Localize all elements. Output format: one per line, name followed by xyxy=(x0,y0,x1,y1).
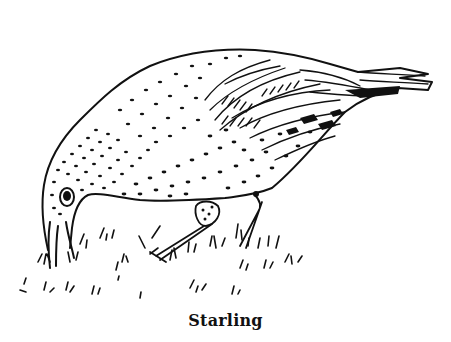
bird-leg-left xyxy=(150,224,212,262)
grass-tufts xyxy=(20,224,302,298)
starling-illustration xyxy=(0,0,451,300)
bird-thigh xyxy=(195,202,219,227)
bird-wing-feathers xyxy=(205,60,428,160)
figure-caption: Starling xyxy=(0,311,451,330)
bird-leg-right xyxy=(240,194,262,248)
bird-body-outline xyxy=(42,50,432,250)
